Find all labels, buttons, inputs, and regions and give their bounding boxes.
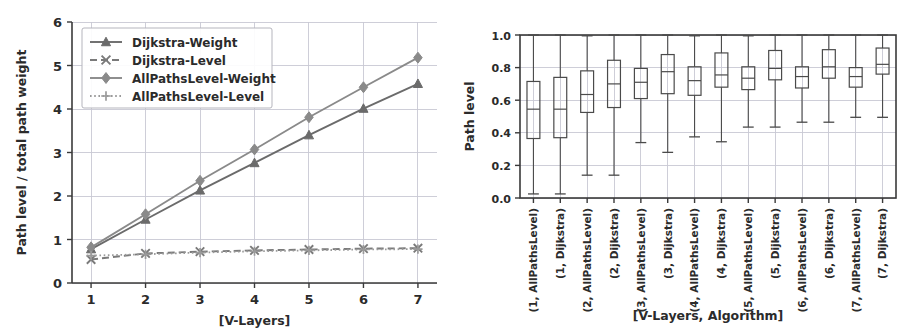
line-chart-y-tick-labels: 0123456 bbox=[53, 15, 62, 291]
x-category-label: (1, AllPathsLevel) bbox=[527, 208, 539, 313]
x-category-label: (6, AllPathsLevel) bbox=[796, 208, 808, 313]
x-tick-label: 2 bbox=[141, 292, 150, 307]
line-chart-x-axis-title: [V-Layers] bbox=[219, 313, 291, 328]
x-category-label: (7, AllPathsLevel) bbox=[850, 208, 862, 313]
series-marker-diamond bbox=[305, 112, 314, 123]
x-tick-label: 1 bbox=[87, 292, 96, 307]
series-marker-diamond bbox=[359, 82, 368, 93]
box-plot-item bbox=[876, 35, 889, 117]
legend-label: AllPathsLevel-Level bbox=[132, 90, 264, 104]
y-tick-label: 0.4 bbox=[492, 127, 512, 140]
x-tick-label: 5 bbox=[304, 292, 313, 307]
legend-label: Dijkstra-Level bbox=[132, 54, 226, 68]
box-plot-x-axis-title: [V-Layers, Algorithm] bbox=[633, 308, 784, 323]
x-category-label: (7, Dijkstra) bbox=[876, 208, 888, 279]
x-category-label: (1, Dijkstra) bbox=[554, 208, 566, 279]
y-tick-label: 0.6 bbox=[492, 95, 512, 108]
x-category-label: (4, AllPathsLevel) bbox=[688, 208, 700, 313]
box-plot-item bbox=[849, 35, 862, 117]
x-category-label: (3, Dijkstra) bbox=[662, 208, 674, 279]
y-tick-label: 5 bbox=[53, 59, 62, 74]
x-tick-label: 7 bbox=[413, 292, 422, 307]
box-plot-item bbox=[661, 35, 674, 152]
x-tick-label: 6 bbox=[359, 292, 368, 307]
legend-label: AllPathsLevel-Weight bbox=[132, 72, 276, 86]
x-category-label: (6, Dijkstra) bbox=[823, 208, 835, 279]
line-chart-x-tick-labels: 1234567 bbox=[87, 292, 423, 307]
box-plot-x-tick-labels: (1, AllPathsLevel)(1, Dijkstra)(2, AllPa… bbox=[527, 208, 888, 313]
series-marker-triangle bbox=[413, 79, 422, 88]
x-category-label: (5, Dijkstra) bbox=[769, 208, 781, 279]
y-tick-label: 0.2 bbox=[492, 160, 512, 173]
x-category-label: (2, AllPathsLevel) bbox=[581, 208, 593, 313]
y-tick-label: 0 bbox=[53, 276, 62, 291]
box-plot-y-tick-labels: 0.00.20.40.60.81.0 bbox=[492, 30, 512, 206]
series-marker-triangle bbox=[250, 158, 259, 167]
x-category-label: (3, AllPathsLevel) bbox=[635, 208, 647, 313]
box-plot-item bbox=[715, 35, 728, 142]
box-plot-axes bbox=[520, 35, 896, 198]
box-plot-y-axis-title: Path level bbox=[462, 81, 477, 151]
y-tick-label: 1 bbox=[53, 233, 62, 248]
x-category-label: (5, AllPathsLevel) bbox=[742, 208, 754, 313]
box-plot-panel: 0.00.20.40.60.81.0 (1, AllPathsLevel)(1,… bbox=[450, 0, 918, 333]
box-plot-gridlines bbox=[520, 35, 896, 198]
legend-label: Dijkstra-Weight bbox=[132, 36, 238, 50]
series-marker-diamond bbox=[250, 144, 259, 155]
box-plot-svg: 0.00.20.40.60.81.0 (1, AllPathsLevel)(1,… bbox=[450, 0, 918, 333]
y-tick-label: 6 bbox=[53, 15, 62, 30]
series-marker-diamond bbox=[196, 175, 205, 186]
y-tick-label: 1.0 bbox=[492, 30, 512, 43]
y-tick-label: 0.8 bbox=[492, 62, 512, 75]
x-category-label: (2, Dijkstra) bbox=[608, 208, 620, 279]
y-tick-label: 3 bbox=[53, 146, 62, 161]
line-chart-panel: 0123456 1234567 Dijkstra-WeightDijkstra-… bbox=[0, 0, 450, 333]
box-plot-boxes-group bbox=[527, 35, 889, 194]
series-marker-diamond bbox=[414, 52, 423, 63]
x-tick-label: 3 bbox=[195, 292, 204, 307]
two-panel-figure: 0123456 1234567 Dijkstra-WeightDijkstra-… bbox=[0, 0, 918, 333]
box-plot-item bbox=[822, 35, 835, 122]
y-tick-label: 4 bbox=[53, 102, 62, 117]
line-chart-legend: Dijkstra-WeightDijkstra-LevelAllPathsLev… bbox=[82, 28, 276, 108]
y-tick-label: 2 bbox=[53, 189, 62, 204]
box-plot-item bbox=[769, 35, 782, 127]
line-chart-y-axis-title: Path level / total path weight bbox=[14, 50, 29, 256]
x-tick-label: 4 bbox=[250, 292, 259, 307]
box-plot-tickmarks bbox=[515, 35, 883, 203]
x-category-label: (4, Dijkstra) bbox=[715, 208, 727, 279]
line-chart-svg: 0123456 1234567 Dijkstra-WeightDijkstra-… bbox=[0, 0, 450, 333]
y-tick-label: 0.0 bbox=[492, 193, 512, 206]
